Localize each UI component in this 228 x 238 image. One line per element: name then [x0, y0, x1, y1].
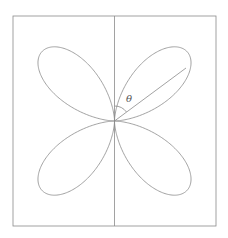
rose-curve-diagram: θ — [0, 0, 228, 238]
theta-label: θ — [126, 93, 132, 104]
